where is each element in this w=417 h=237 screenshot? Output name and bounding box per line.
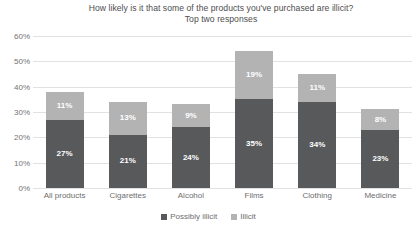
chart-legend: Possibly illicitIllicit	[0, 212, 417, 221]
x-tick-label-medicine: Medicine	[345, 191, 415, 200]
bar-segment[interactable]: 35%	[235, 99, 273, 188]
bar-value-label: 34%	[309, 141, 325, 149]
legend-label: Illicit	[240, 212, 256, 221]
x-tick-label-cigarettes: Cigarettes	[93, 191, 163, 200]
legend-label: Possibly illicit	[170, 212, 217, 221]
bar-segment[interactable]: 24%	[172, 127, 210, 188]
bar-value-label: 21%	[120, 157, 136, 165]
bar-group[interactable]: 13%21%	[109, 102, 147, 188]
chart-title-block: How likely is it that some of the produc…	[30, 3, 412, 25]
chart-subtitle: Top two responses	[30, 14, 412, 25]
bar-group[interactable]: 19%35%	[235, 51, 273, 188]
bar-segment[interactable]: 23%	[361, 130, 399, 188]
bar-value-label: 35%	[246, 140, 262, 148]
y-tick-label: 0%	[0, 184, 30, 193]
legend-item[interactable]: Possibly illicit	[161, 212, 217, 221]
y-tick-label: 20%	[0, 133, 30, 142]
bar-group[interactable]: 8%23%	[361, 109, 399, 188]
y-tick-label: 50%	[0, 57, 30, 66]
gridline-0	[33, 188, 412, 189]
y-axis-tick-labels: 0%10%20%30%40%50%60%	[0, 36, 30, 188]
legend-swatch-icon	[231, 214, 237, 220]
bar-value-label: 13%	[120, 114, 136, 122]
y-tick-label: 40%	[0, 82, 30, 91]
bar-segment[interactable]: 9%	[172, 104, 210, 127]
x-tick-label-all-products: All products	[30, 191, 100, 200]
x-tick-label-clothing: Clothing	[282, 191, 352, 200]
bar-value-label: 23%	[372, 155, 388, 163]
x-tick-label-alcohol: Alcohol	[156, 191, 226, 200]
legend-swatch-icon	[161, 214, 167, 220]
plot-area: 11%27%13%21%9%24%19%35%11%34%8%23%	[33, 36, 412, 188]
y-tick-label: 30%	[0, 108, 30, 117]
bars-layer: 11%27%13%21%9%24%19%35%11%34%8%23%	[33, 36, 412, 188]
bar-segment[interactable]: 8%	[361, 109, 399, 129]
y-tick-label: 10%	[0, 158, 30, 167]
bar-value-label: 27%	[57, 150, 73, 158]
bar-value-label: 8%	[375, 116, 387, 124]
chart-title: How likely is it that some of the produc…	[30, 3, 412, 14]
y-tick-label: 60%	[0, 32, 30, 41]
bar-value-label: 9%	[185, 112, 197, 120]
bar-segment[interactable]: 19%	[235, 51, 273, 99]
x-tick-label-films: Films	[219, 191, 289, 200]
bar-segment[interactable]: 34%	[298, 102, 336, 188]
bar-value-label: 11%	[309, 84, 325, 92]
bar-segment[interactable]: 13%	[109, 102, 147, 135]
bar-value-label: 11%	[57, 102, 73, 110]
bar-group[interactable]: 9%24%	[172, 104, 210, 188]
legend-item[interactable]: Illicit	[231, 212, 256, 221]
bar-segment[interactable]: 27%	[46, 120, 84, 188]
bar-value-label: 24%	[183, 154, 199, 162]
stacked-bar-chart: How likely is it that some of the produc…	[0, 0, 417, 237]
bar-value-label: 19%	[246, 71, 262, 79]
bar-segment[interactable]: 21%	[109, 135, 147, 188]
bar-group[interactable]: 11%34%	[298, 74, 336, 188]
bar-segment[interactable]: 11%	[298, 74, 336, 102]
bar-segment[interactable]: 11%	[46, 92, 84, 120]
x-axis-category-labels: All productsCigarettesAlcoholFilmsClothi…	[33, 191, 412, 205]
bar-group[interactable]: 11%27%	[46, 92, 84, 188]
